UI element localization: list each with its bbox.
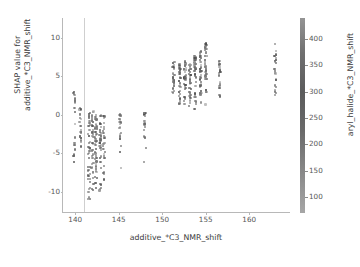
scatter-point — [185, 79, 187, 81]
scatter-point — [178, 103, 180, 105]
scatter-point — [195, 81, 197, 83]
y-tick-label: -10 — [48, 188, 60, 195]
scatter-point — [91, 150, 93, 152]
y-tick-mark — [61, 76, 64, 77]
scatter-point — [100, 187, 102, 189]
scatter-point — [120, 132, 122, 134]
colorbar-gradient — [300, 18, 305, 213]
scatter-point — [144, 115, 146, 117]
colorbar-tick-label: 350 — [309, 62, 323, 69]
scatter-point — [78, 121, 80, 123]
scatter-point — [87, 125, 89, 127]
colorbar-tick-mark — [305, 92, 308, 93]
x-tick-label: 160 — [242, 216, 256, 223]
scatter-point — [95, 187, 97, 189]
y-axis-label-line1: SHAP value for — [13, 0, 23, 150]
scatter-point — [184, 84, 186, 86]
scatter-point — [183, 68, 185, 70]
scatter-point — [189, 102, 191, 104]
scatter-point — [99, 138, 101, 140]
colorbar-tick-mark — [305, 197, 308, 198]
scatter-point — [183, 96, 185, 98]
scatter-point — [205, 44, 207, 46]
scatter-point — [199, 51, 201, 53]
colorbar-tick-mark — [305, 65, 308, 66]
colorbar-tick-label: 250 — [309, 115, 323, 122]
scatter-point — [274, 94, 276, 96]
scatter-point — [100, 126, 102, 128]
scatter-point — [143, 161, 145, 163]
scatter-point — [193, 57, 195, 59]
scatter-point — [74, 111, 76, 113]
scatter-point — [88, 157, 90, 159]
colorbar-tick-label: 400 — [309, 35, 323, 42]
scatter-point — [204, 103, 206, 105]
scatter-point — [274, 70, 276, 72]
y-axis-label: SHAP value for additive_*C3_NMR_shift — [13, 0, 32, 150]
scatter-point — [79, 136, 81, 138]
scatter-point — [184, 71, 186, 73]
scatter-point — [275, 62, 277, 64]
scatter-point — [218, 85, 220, 87]
scatter-point — [274, 43, 276, 45]
scatter-point — [91, 114, 93, 116]
scatter-point — [103, 178, 105, 180]
scatter-point — [118, 127, 120, 129]
scatter-point — [183, 100, 185, 102]
scatter-point — [96, 177, 98, 179]
scatter-point — [103, 165, 105, 167]
scatter-point — [195, 67, 197, 69]
scatter-point — [119, 138, 121, 140]
scatter-point — [218, 74, 220, 76]
colorbar-tick-label: 200 — [309, 141, 323, 148]
scatter-point — [188, 95, 190, 97]
scatter-point — [73, 142, 75, 144]
scatter-point — [95, 138, 97, 140]
scatter-point — [172, 92, 174, 94]
scatter-point — [95, 144, 97, 146]
scatter-point — [120, 145, 122, 147]
scatter-point — [204, 47, 206, 49]
scatter-point — [199, 85, 201, 87]
scatter-point — [80, 109, 82, 111]
y-tick-label: 5 — [55, 73, 60, 80]
scatter-point — [194, 100, 196, 102]
colorbar-tick-label: 150 — [309, 167, 323, 174]
scatter-point — [95, 116, 97, 118]
scatter-point — [95, 148, 97, 150]
colorbar-tick-mark — [305, 118, 308, 119]
scatter-point — [185, 87, 187, 89]
scatter-point — [218, 66, 220, 68]
scatter-point — [144, 126, 146, 128]
scatter-point — [120, 167, 122, 169]
scatter-point — [74, 123, 76, 125]
scatter-point — [74, 136, 76, 138]
scatter-point — [73, 161, 75, 163]
colorbar-tick-label: 100 — [309, 194, 323, 201]
scatter-point — [80, 140, 82, 142]
scatter-point — [194, 85, 196, 87]
scatter-point — [179, 90, 181, 92]
scatter-point — [103, 122, 105, 124]
scatter-point — [143, 129, 145, 131]
scatter-point — [275, 50, 277, 52]
y-tick-mark — [61, 115, 64, 116]
scatter-point — [173, 66, 175, 68]
scatter-point — [103, 157, 105, 159]
scatter-point — [87, 191, 89, 193]
scatter-point — [79, 131, 81, 133]
scatter-point — [88, 152, 90, 154]
scatter-points-layer — [63, 18, 290, 212]
colorbar-tick-mark — [305, 171, 308, 172]
scatter-point — [195, 103, 197, 105]
scatter-point — [100, 167, 102, 169]
scatter-point — [185, 64, 187, 66]
scatter-point — [204, 55, 206, 57]
scatter-point — [88, 135, 90, 137]
scatter-point — [205, 89, 207, 91]
scatter-point — [274, 85, 276, 87]
scatter-point — [100, 155, 102, 157]
y-tick-label: -5 — [53, 150, 60, 157]
scatter-point — [87, 169, 89, 171]
scatter-point — [194, 108, 196, 110]
